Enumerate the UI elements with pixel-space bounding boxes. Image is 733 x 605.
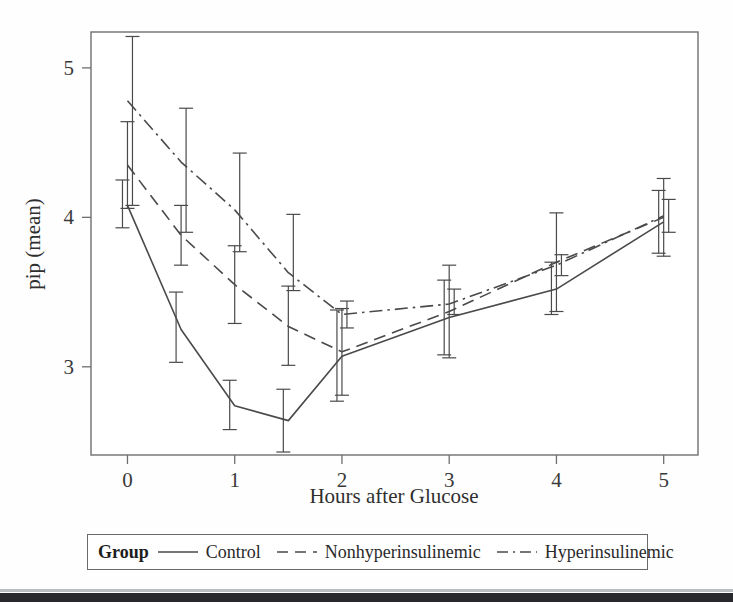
figure-page: 345 012345 Hours after Glucose pip (mean… — [0, 0, 733, 605]
plot-frame — [91, 32, 698, 455]
legend-swatch-dashdot-icon — [496, 546, 538, 558]
legend-entry-nonhyperinsulinemic[interactable]: Nonhyperinsulinemic — [274, 542, 481, 563]
legend-entry-control[interactable]: Control — [155, 542, 261, 563]
legend-swatch-dashed-icon — [276, 546, 318, 558]
x-tick-label: 1 — [229, 468, 240, 492]
y-axis-title: pip (mean) — [21, 198, 45, 290]
legend-label-control: Control — [206, 542, 261, 563]
y-tick-label: 3 — [64, 355, 75, 379]
x-tick-label: 0 — [122, 468, 133, 492]
legend-entry-hyperinsulinemic[interactable]: Hyperinsulinemic — [494, 542, 674, 563]
x-tick-label: 5 — [658, 468, 669, 492]
legend-label-nonhyperinsulinemic: Nonhyperinsulinemic — [325, 542, 481, 563]
y-tick-label: 5 — [64, 56, 75, 80]
x-axis-title: Hours after Glucose — [309, 484, 478, 508]
line-chart-plot: 345 012345 Hours after Glucose pip (mean… — [0, 0, 733, 592]
legend-title: Group — [98, 542, 149, 563]
y-axis-ticks: 345 — [64, 56, 92, 379]
chart-figure: 345 012345 Hours after Glucose pip (mean… — [0, 0, 733, 592]
y-tick-label: 4 — [64, 205, 75, 229]
legend-swatch-solid-icon — [157, 546, 199, 558]
page-edge-highlight — [0, 589, 733, 592]
page-bottom-rule — [0, 593, 733, 602]
chart-legend: Group Control Nonhyperinsulinemic H — [87, 534, 648, 570]
x-tick-label: 4 — [551, 468, 562, 492]
legend-label-hyperinsulinemic: Hyperinsulinemic — [545, 542, 674, 563]
